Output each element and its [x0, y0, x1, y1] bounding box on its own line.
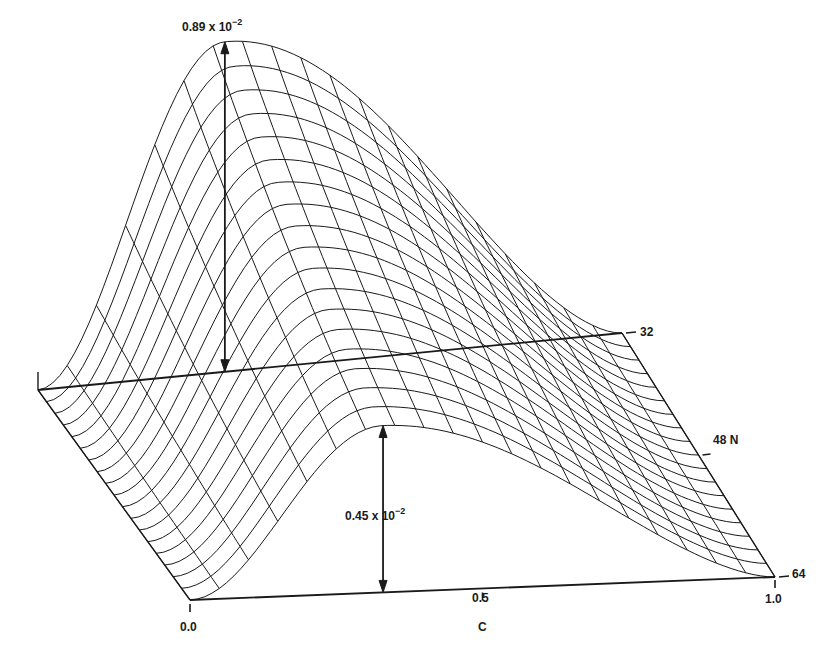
- mesh-line-constant-n: [190, 425, 775, 600]
- mesh-line-constant-n: [114, 247, 699, 495]
- c-axis-label: C: [478, 620, 487, 634]
- n-tick-64: 64: [792, 567, 805, 581]
- c-tick-05: 0.5: [472, 591, 489, 605]
- mesh-line-constant-n: [89, 182, 673, 460]
- mesh-line-constant-n: [80, 160, 664, 449]
- mesh-line-constant-n: [148, 329, 733, 542]
- mesh-line-constant-n: [156, 349, 741, 553]
- bottom-annotation-mantissa: 0.45 x 10: [345, 509, 395, 523]
- mesh-line-constant-c: [67, 366, 219, 589]
- top-peak-annotation: 0.89 x 10−2: [182, 18, 242, 34]
- mesh-line-constant-n: [97, 204, 681, 472]
- n-tick-mark-64: [779, 576, 789, 577]
- surface-mesh: [38, 41, 775, 600]
- mesh-line-constant-c: [534, 283, 687, 550]
- n-tick-mark-32: [626, 332, 636, 333]
- c-tick-1: 1.0: [765, 592, 782, 606]
- n-tick-48-axis-label: 48 N: [713, 433, 738, 447]
- n-tick-mark-48: [703, 454, 711, 455]
- mesh-line-constant-n: [72, 137, 656, 437]
- n-tick-32: 32: [640, 325, 653, 339]
- mesh-line-constant-n: [182, 407, 767, 589]
- bottom-annotation-exponent: −2: [395, 506, 405, 516]
- top-annotation-mantissa: 0.89 x 10: [182, 20, 232, 34]
- bottom-peak-annotation: 0.45 x 10−2: [345, 507, 405, 523]
- mesh-line-constant-n: [38, 41, 622, 390]
- surface-plot: [0, 0, 834, 657]
- peak-arrow-n32: [221, 42, 229, 372]
- mesh-line-constant-n: [173, 388, 758, 577]
- top-annotation-exponent: −2: [232, 17, 242, 27]
- mesh-line-constant-c: [359, 98, 512, 453]
- right-axis-c1: [622, 333, 775, 577]
- c-tick-0: 0.0: [180, 620, 197, 634]
- mesh-line-constant-n: [131, 289, 716, 519]
- plot-axes: [38, 332, 789, 612]
- mesh-line-constant-c: [155, 145, 307, 482]
